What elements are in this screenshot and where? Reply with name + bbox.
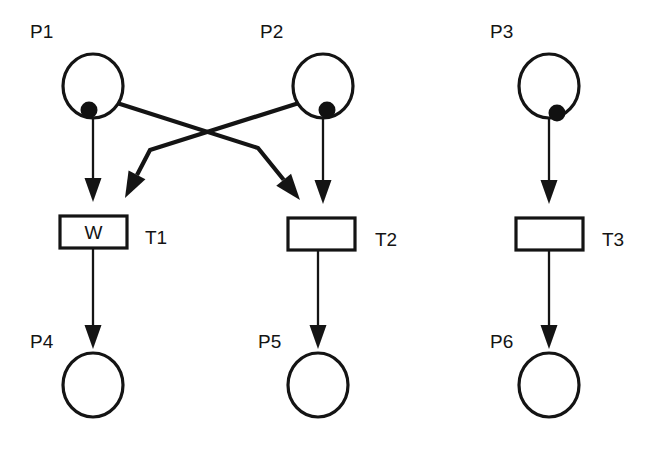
transition-inner-label-t1: W <box>85 222 103 243</box>
transitions-layer: W <box>60 216 583 250</box>
place-p4[interactable] <box>63 353 123 417</box>
arc-t1-p4 <box>85 248 102 349</box>
place-label-p1: P1 <box>30 21 53 42</box>
transition-label-t1: T1 <box>145 227 167 248</box>
place-circle[interactable] <box>63 353 123 417</box>
arrow-head-icon <box>85 325 102 349</box>
place-p1[interactable] <box>63 54 123 119</box>
arrow-head-icon <box>310 325 327 349</box>
diagram-canvas: W P1P2P3P4P5P6T1T2T3 <box>0 0 653 449</box>
arc-p1-t1 <box>85 118 102 202</box>
place-circle[interactable] <box>519 353 579 417</box>
transition-box[interactable] <box>516 218 583 250</box>
place-circle[interactable] <box>288 353 348 417</box>
place-p5[interactable] <box>288 353 348 417</box>
arc-t3-p6 <box>541 250 558 349</box>
place-p2[interactable] <box>293 54 353 119</box>
place-label-p6: P6 <box>490 331 513 352</box>
transition-t1[interactable]: W <box>60 216 127 248</box>
place-label-p4: P4 <box>30 331 54 352</box>
place-label-p3: P3 <box>490 21 513 42</box>
arc-p2-t2 <box>315 118 332 204</box>
place-p6[interactable] <box>519 353 579 417</box>
place-label-p5: P5 <box>258 331 281 352</box>
arrow-head-icon <box>541 325 558 349</box>
token-dot-icon <box>549 105 566 122</box>
petri-net-diagram: W P1P2P3P4P5P6T1T2T3 <box>0 0 653 449</box>
token-dot-icon <box>81 102 98 119</box>
arrow-head-icon <box>85 178 102 202</box>
transition-box[interactable] <box>288 218 355 250</box>
arc-p1-t2 <box>117 103 300 200</box>
place-label-p2: P2 <box>260 21 283 42</box>
transition-label-t2: T2 <box>375 229 397 250</box>
token-dot-icon <box>319 102 336 119</box>
place-p3[interactable] <box>519 54 579 122</box>
arc-p2-t1 <box>125 103 299 198</box>
transition-label-t3: T3 <box>602 229 624 250</box>
arrow-head-icon <box>541 180 558 204</box>
arc-t2-p5 <box>310 250 327 349</box>
place-circle[interactable] <box>519 54 579 118</box>
transition-t2[interactable] <box>288 218 355 250</box>
arrow-head-icon <box>125 171 145 198</box>
transition-t3[interactable] <box>516 218 583 250</box>
arrow-head-icon <box>315 180 332 204</box>
arc-shaft <box>137 103 299 175</box>
arc-p3-t3 <box>541 118 558 204</box>
